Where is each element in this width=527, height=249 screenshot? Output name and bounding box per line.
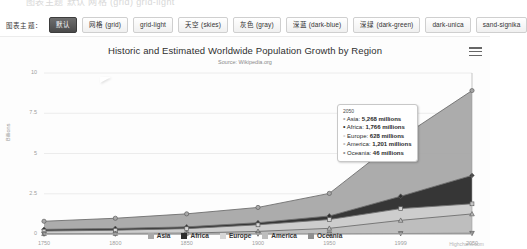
theme-selector-label: 图表主题： xyxy=(6,20,42,30)
marker-asia[interactable] xyxy=(42,219,46,223)
theme-button-2[interactable]: grid-light xyxy=(133,17,173,34)
tooltip-row-africa: • Africa: 1,766 millions xyxy=(343,123,412,131)
marker-asia[interactable] xyxy=(256,205,260,209)
chart-legend: AsiaAfricaEuropeAmericaOceania xyxy=(0,232,490,239)
x-axis-tick-label: 2050 xyxy=(452,240,492,246)
legend-swatch-icon xyxy=(308,233,314,239)
tooltip-series-name: Europe: xyxy=(345,133,369,139)
x-axis-tick-label: 1800 xyxy=(95,240,135,246)
tooltip-series-name: America: xyxy=(345,141,372,147)
legend-label: Oceania xyxy=(317,232,342,239)
tooltip-row-asia: • Asia: 5,268 millions xyxy=(343,115,412,123)
legend-swatch-icon xyxy=(148,233,154,239)
legend-item-africa[interactable]: Africa xyxy=(181,232,208,239)
tooltip-row-america: • America: 1,201 millions xyxy=(343,140,412,148)
y-axis-tick-label: 0 xyxy=(17,230,37,236)
marker-europe[interactable] xyxy=(399,207,403,211)
legend-swatch-icon xyxy=(262,233,268,239)
tooltip-series-value: 5,268 millions xyxy=(362,116,401,122)
y-axis-tick-label: 5 xyxy=(17,150,37,156)
x-axis-tick-label: 1999 xyxy=(381,240,421,246)
y-axis-tick-label: 10 xyxy=(17,69,37,75)
legend-label: Europe xyxy=(229,232,251,239)
theme-button-6[interactable]: 深绿 (dark-green) xyxy=(353,17,420,34)
theme-selector-bar: 图表主题： 默认网格 (grid)grid-light天空 (skies)灰色 … xyxy=(0,15,490,35)
y-axis-tick-label: 2.5 xyxy=(17,190,37,196)
marker-asia[interactable] xyxy=(327,191,331,195)
y-axis-title: Billions xyxy=(5,124,11,141)
tooltip-series-name: Oceania: xyxy=(345,150,372,156)
tooltip-series-name: Africa: xyxy=(345,124,365,130)
tooltip-series-value: 46 millions xyxy=(373,150,404,156)
theme-button-4[interactable]: 灰色 (gray) xyxy=(233,17,281,34)
tooltip-series-value: 628 millions xyxy=(370,133,404,139)
theme-button-0[interactable]: 默认 xyxy=(49,17,77,34)
marker-europe[interactable] xyxy=(327,218,331,222)
tooltip-series-value: 1,201 millions xyxy=(372,141,411,147)
x-axis-tick-label: 1950 xyxy=(309,240,349,246)
legend-item-asia[interactable]: Asia xyxy=(148,232,171,239)
page-top-strip: 图表主题 默认 网格 (grid) grid-light xyxy=(0,0,490,13)
tooltip-series-value: 1,766 millions xyxy=(365,124,404,130)
legend-swatch-icon xyxy=(181,233,187,239)
legend-item-europe[interactable]: Europe xyxy=(220,232,251,239)
tooltip-row-oceania: • Oceania: 46 millions xyxy=(343,149,412,157)
legend-item-oceania[interactable]: Oceania xyxy=(308,232,342,239)
chart-container: Historic and Estimated Worldwide Populat… xyxy=(0,36,490,249)
legend-label: Africa xyxy=(190,232,208,239)
theme-button-7[interactable]: dark-unica xyxy=(425,17,470,34)
x-axis-tick-label: 1850 xyxy=(167,240,207,246)
chart-tooltip: 2050 • Asia: 5,268 millions• Africa: 1,7… xyxy=(337,104,418,162)
theme-button-8[interactable]: sand-signika xyxy=(476,17,527,34)
tooltip-header: 2050 xyxy=(343,108,412,114)
x-axis-tick-label: 1750 xyxy=(24,240,64,246)
marker-asia[interactable] xyxy=(185,212,189,216)
tooltip-series-name: Asia: xyxy=(345,116,361,122)
tooltip-pointer xyxy=(100,77,111,83)
theme-button-3[interactable]: 天空 (skies) xyxy=(178,17,228,34)
y-axis-tick-label: 7.5 xyxy=(17,109,37,115)
legend-label: America xyxy=(271,232,297,239)
tooltip-row-europe: • Europe: 628 millions xyxy=(343,132,412,140)
legend-swatch-icon xyxy=(220,233,226,239)
marker-europe[interactable] xyxy=(256,223,260,227)
legend-label: Asia xyxy=(157,232,171,239)
top-strip-ghost-text: 图表主题 默认 网格 (grid) grid-light xyxy=(26,0,175,8)
x-axis-tick-label: 1900 xyxy=(238,240,278,246)
legend-item-america[interactable]: America xyxy=(262,232,297,239)
theme-button-1[interactable]: 网格 (grid) xyxy=(82,17,128,34)
theme-button-5[interactable]: 深蓝 (dark-blue) xyxy=(286,17,349,34)
marker-asia[interactable] xyxy=(113,216,117,220)
